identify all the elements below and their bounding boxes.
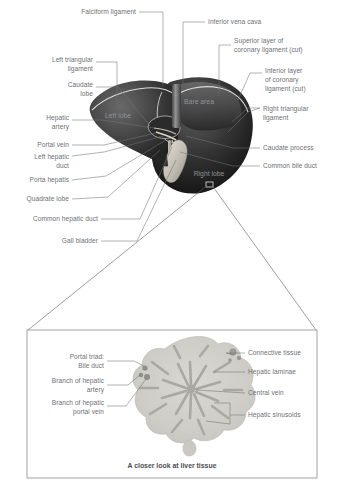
label-left-hepatic-duct-2: duct [56, 162, 69, 169]
label-common-hepatic-duct: Common hepatic duct [33, 215, 98, 223]
label-gall-bladder: Gall bladder [62, 237, 99, 244]
label-branch-hepatic-artery-2: artery [87, 386, 105, 394]
label-falciform-ligament: Falciform ligament [81, 8, 136, 16]
label-caudate-lobe-1: Caudate [68, 81, 94, 88]
label-inferior-vena-cava: Inferior vena cava [208, 18, 262, 25]
zoom-connector-left [28, 186, 207, 330]
inferior-vena-cava-shape [172, 84, 181, 128]
label-branch-hepatic-portal-vein-2: portal vein [73, 408, 104, 416]
label-common-bile-duct: Common bile duct [263, 162, 317, 169]
inset-caption: A closer look at liver tissue [128, 462, 217, 469]
label-hepatic-laminae: Hepatic laminae [248, 368, 296, 376]
label-left-triangular-ligament-1: Left triangular [52, 56, 94, 64]
label-right-triangular-1: Right triangular [263, 105, 309, 113]
label-superior-coronary-1: Superior layer of [234, 37, 283, 45]
inset-panel: Portal triad: Bile duct Branch of hepati… [27, 330, 317, 478]
liver-organ [90, 77, 253, 193]
label-inferior-coronary-2: of coronary [265, 76, 299, 84]
label-right-triangular-2: ligament [263, 114, 288, 122]
organ-label-bare-area: Bare area [184, 98, 214, 105]
label-central-vein: Central vein [248, 389, 284, 396]
label-branch-hepatic-portal-vein-1: Branch of hepatic [52, 399, 105, 407]
label-inferior-coronary-1: Inferior layer [265, 67, 303, 75]
organ-label-left-lobe: Left lobe [105, 112, 131, 119]
label-hepatic-sinusoids: Hepatic sinusoids [248, 411, 301, 419]
label-connective-tissue: Connective tissue [248, 349, 301, 356]
label-portal-triad: Portal triad: [70, 353, 104, 360]
label-portal-vein: Portal vein [37, 141, 69, 148]
diagram-canvas: Falciform ligament Left triangular ligam… [0, 0, 341, 492]
label-caudate-lobe-2: lobe [80, 90, 93, 97]
label-hepatic-artery-1: Hepatic [46, 114, 69, 122]
label-hepatic-artery-2: artery [52, 123, 70, 131]
zoom-connectors [28, 186, 316, 330]
label-left-triangular-ligament-2: ligament [68, 65, 93, 73]
label-caudate-process: Caudate process [263, 144, 314, 152]
label-bile-duct: Bile duct [78, 362, 104, 369]
figure-root: Falciform ligament Left triangular ligam… [0, 0, 341, 492]
leader-quadrate-lobe [72, 150, 160, 199]
hepatic-artery-branch-shape [139, 373, 143, 377]
label-quadrate-lobe: Quadrate lobe [27, 195, 70, 203]
label-inferior-coronary-3: ligament (cut) [265, 85, 306, 93]
label-branch-hepatic-artery-1: Branch of hepatic [52, 377, 105, 385]
leader-inferior-vena-cava [183, 22, 205, 84]
zoom-connector-right [213, 186, 317, 330]
label-porta-hepatis: Porta hepatis [29, 176, 69, 184]
hepatic-portal-vein-branch-shape [144, 374, 150, 380]
bile-duct-shape [142, 365, 147, 370]
label-superior-coronary-2: coronary ligament (cut) [234, 46, 303, 54]
label-left-hepatic-duct-1: Left hepatic [34, 153, 69, 161]
organ-label-right-lobe: Right lobe [194, 170, 225, 178]
leader-falciform-ligament [139, 12, 163, 86]
